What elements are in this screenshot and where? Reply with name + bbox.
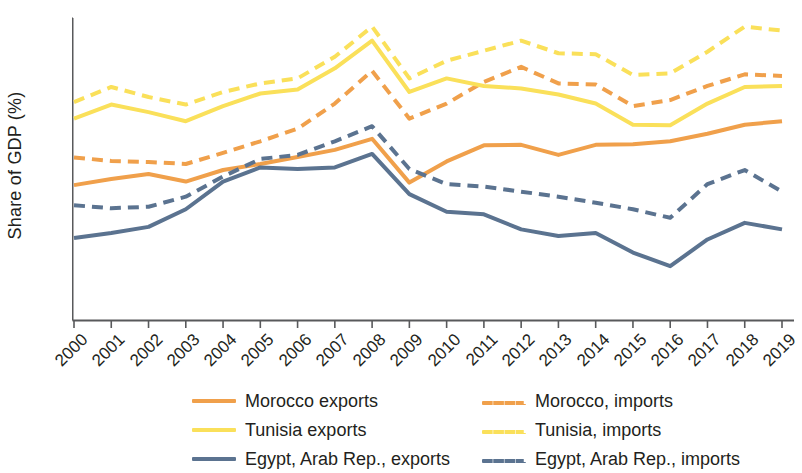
x-axis-tick-2017: 2017 [678,330,726,378]
x-axis-tick-2004: 2004 [193,330,241,378]
x-axis-tick-2003: 2003 [156,330,204,378]
x-axis-tick-2011: 2011 [454,330,502,378]
legend-item[interactable]: Egypt, Arab Rep., exports [192,446,450,472]
x-axis-tick-2006: 2006 [268,330,316,378]
legend-label: Tunisia, imports [535,421,661,439]
series-line-morocco-exports [74,121,782,185]
legend-label: Morocco exports [245,392,378,410]
x-axis-tick-labels: 2000200120022003200420052006200720082009… [72,320,798,380]
x-axis-tick-2005: 2005 [230,330,278,378]
x-axis-tick-2016: 2016 [640,330,688,378]
x-axis-tick-2018: 2018 [715,330,763,378]
x-axis-tick-2014: 2014 [566,330,614,378]
x-axis-tick-2007: 2007 [305,330,353,378]
chart-legend: Morocco exportsMorocco, importsTunisia e… [192,388,802,473]
legend-item[interactable]: Tunisia exports [192,417,366,443]
x-axis-tick-2009: 2009 [379,330,427,378]
legend-item[interactable]: Morocco, imports [482,388,673,414]
legend-label: Morocco, imports [535,392,673,410]
legend-item[interactable]: Tunisia, imports [482,417,661,443]
legend-label: Tunisia exports [245,421,366,439]
x-axis-tick-2002: 2002 [119,330,167,378]
legend-label: Egypt, Arab Rep., imports [535,450,740,468]
series-line-morocco-imports [74,67,782,164]
x-axis-tick-2001: 2001 [81,330,129,378]
y-axis-tick-labels [22,0,60,340]
x-axis-tick-2012: 2012 [491,330,539,378]
series-line-tunisia-imports [74,27,782,105]
legend-item[interactable]: Egypt, Arab Rep., imports [482,446,740,472]
x-axis-tick-2010: 2010 [417,330,465,378]
x-axis-tick-2015: 2015 [603,330,651,378]
line-chart: Share of GDP (%) 20002001200220032004200… [0,0,802,473]
series-canvas [72,12,794,334]
legend-item[interactable]: Morocco exports [192,388,378,414]
x-axis-tick-2013: 2013 [528,330,576,378]
x-axis-tick-2019: 2019 [752,330,800,378]
x-axis-tick-2008: 2008 [342,330,390,378]
legend-label: Egypt, Arab Rep., exports [245,450,450,468]
plot-area [72,12,794,320]
